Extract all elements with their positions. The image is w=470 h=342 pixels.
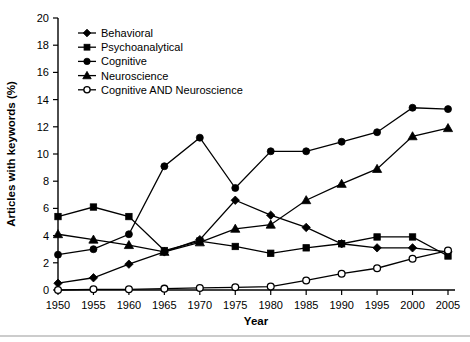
- y-tick-label: 14: [37, 94, 49, 106]
- y-tick-label: 16: [37, 66, 49, 78]
- marker-diamond: [125, 260, 133, 268]
- legend-item-neuroscience: Neuroscience: [78, 70, 168, 82]
- marker-open-circle: [409, 255, 416, 262]
- x-tick-label: 1995: [365, 299, 389, 311]
- marker-circle: [232, 185, 239, 192]
- marker-circle: [125, 231, 132, 238]
- marker-open-circle: [267, 283, 274, 290]
- x-tick-label: 1950: [46, 299, 70, 311]
- marker-diamond: [408, 244, 416, 252]
- y-tick-label: 6: [43, 202, 49, 214]
- marker-square: [55, 213, 61, 219]
- marker-triangle: [337, 179, 346, 187]
- x-tick-label: 1975: [223, 299, 247, 311]
- marker-open-circle: [55, 287, 62, 294]
- marker-circle: [338, 138, 345, 145]
- marker-circle: [196, 134, 203, 141]
- x-axis-ticks: 1950195519601965197019751980198519901995…: [46, 290, 460, 311]
- x-tick-label: 1980: [258, 299, 282, 311]
- y-tick-label: 8: [43, 175, 49, 187]
- y-tick-label: 2: [43, 257, 49, 269]
- y-tick-label: 18: [37, 39, 49, 51]
- marker-triangle: [302, 196, 311, 204]
- legend-label: Cognitive AND Neuroscience: [101, 84, 243, 96]
- marker-diamond: [267, 211, 275, 219]
- series-cognitive: [55, 104, 452, 258]
- marker-square: [84, 44, 90, 50]
- marker-square: [232, 243, 238, 249]
- chart-legend: BehavioralPsychoanalyticalCognitiveNeuro…: [78, 27, 243, 96]
- x-tick-label: 1985: [294, 299, 318, 311]
- x-tick-label: 1965: [152, 299, 176, 311]
- marker-open-circle: [338, 270, 345, 277]
- x-tick-label: 2005: [436, 299, 460, 311]
- marker-circle: [303, 148, 310, 155]
- legend-label: Behavioral: [101, 27, 153, 39]
- y-tick-label: 20: [37, 12, 49, 24]
- marker-diamond: [83, 29, 91, 37]
- marker-circle: [90, 246, 97, 253]
- marker-square: [303, 245, 309, 251]
- keyword-trends-line-chart: 02468101214161820 1950195519601965197019…: [0, 0, 470, 342]
- y-axis-title: Articles with keywords (%): [5, 81, 17, 227]
- x-tick-label: 1960: [117, 299, 141, 311]
- marker-circle: [409, 104, 416, 111]
- series-layer: [53, 104, 452, 293]
- marker-square: [338, 241, 344, 247]
- marker-open-circle: [303, 277, 310, 284]
- marker-diamond: [302, 223, 310, 231]
- marker-circle: [374, 129, 381, 136]
- legend-item-cognitive: Cognitive: [78, 55, 147, 67]
- marker-triangle: [266, 220, 275, 228]
- marker-square: [126, 213, 132, 219]
- legend-label: Cognitive: [101, 55, 147, 67]
- marker-circle: [161, 163, 168, 170]
- marker-open-circle: [126, 286, 133, 293]
- legend-label: Neuroscience: [101, 70, 168, 82]
- marker-open-circle: [90, 286, 97, 293]
- marker-diamond: [89, 274, 97, 282]
- series-neuroscience: [53, 124, 452, 256]
- x-axis-title: Year: [244, 315, 269, 327]
- marker-square: [409, 234, 415, 240]
- x-tick-label: 2000: [400, 299, 424, 311]
- series-polyline: [58, 207, 448, 256]
- marker-open-circle: [232, 284, 239, 291]
- y-tick-label: 10: [37, 148, 49, 160]
- series-polyline: [58, 128, 448, 252]
- marker-open-circle: [84, 87, 90, 93]
- x-tick-label: 1955: [81, 299, 105, 311]
- marker-triangle: [443, 124, 452, 132]
- marker-triangle: [53, 230, 62, 238]
- chart-figure: 02468101214161820 1950195519601965197019…: [0, 0, 470, 342]
- y-tick-label: 0: [43, 284, 49, 296]
- legend-item-cognitive-and-neuroscience: Cognitive AND Neuroscience: [78, 84, 243, 96]
- series-behavioral: [54, 196, 452, 287]
- marker-open-circle: [196, 285, 203, 292]
- legend-item-psychoanalytical: Psychoanalytical: [78, 41, 183, 53]
- marker-diamond: [373, 244, 381, 252]
- y-tick-label: 4: [43, 230, 49, 242]
- marker-square: [90, 204, 96, 210]
- legend-item-behavioral: Behavioral: [78, 27, 153, 39]
- x-tick-label: 1970: [188, 299, 212, 311]
- series-polyline: [58, 108, 448, 255]
- marker-open-circle: [445, 247, 452, 254]
- marker-open-circle: [161, 285, 168, 292]
- series-psychoanalytical: [55, 204, 451, 259]
- marker-circle: [84, 58, 90, 64]
- marker-open-circle: [374, 265, 381, 272]
- marker-circle: [267, 148, 274, 155]
- y-tick-label: 12: [37, 121, 49, 133]
- marker-square: [268, 250, 274, 256]
- legend-label: Psychoanalytical: [101, 41, 183, 53]
- x-tick-label: 1990: [329, 299, 353, 311]
- marker-square: [374, 234, 380, 240]
- series-polyline: [58, 251, 448, 290]
- marker-circle: [445, 106, 452, 113]
- marker-circle: [55, 251, 62, 258]
